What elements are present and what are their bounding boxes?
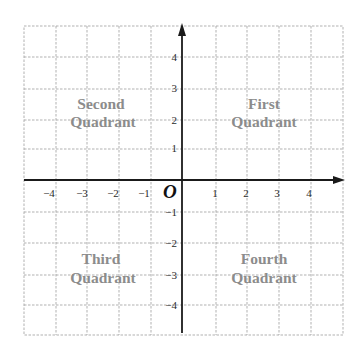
axes (24, 23, 345, 333)
quadrant-label-line2: Quadrant (231, 113, 297, 130)
coordinate-plane-diagram: O −4 −3 −2 −1 1 2 3 4 4 3 2 1 −1 −2 −3 −… (0, 0, 364, 359)
quadrant-label-line2: Quadrant (70, 113, 136, 130)
quadrant-label-line1: Fourth (241, 250, 288, 267)
x-tick-label: −1 (138, 187, 150, 199)
y-axis-arrow-icon (178, 23, 186, 36)
origin-label: O (163, 181, 177, 202)
quadrant-label-line1: Second (77, 95, 125, 112)
quadrant-label-line1: First (248, 95, 281, 112)
y-tick-label: −4 (165, 299, 177, 311)
quadrant-label-line1: Third (82, 250, 121, 267)
quadrant-label-line2: Quadrant (231, 269, 297, 286)
first-quadrant-label: First Quadrant (231, 95, 297, 130)
y-tick-label: −3 (165, 269, 177, 281)
x-tick-label: −2 (107, 187, 119, 199)
x-tick-label: −3 (76, 187, 88, 199)
y-tick-label: −1 (165, 206, 177, 218)
third-quadrant-label: Third Quadrant (70, 250, 136, 286)
x-tick-label: 3 (274, 187, 280, 199)
coordinate-plane-svg: O −4 −3 −2 −1 1 2 3 4 4 3 2 1 −1 −2 −3 −… (0, 0, 364, 359)
y-tick-label: −2 (165, 237, 177, 249)
y-tick-label: 2 (172, 114, 178, 126)
y-tick-label: 3 (172, 82, 178, 94)
quadrant-label-line2: Quadrant (70, 269, 136, 286)
x-tick-label: −4 (43, 187, 55, 199)
x-tick-label: 2 (243, 187, 249, 199)
fourth-quadrant-label: Fourth Quadrant (231, 250, 297, 286)
quadrant-labels: Second Quadrant First Quadrant Third Qua… (70, 95, 297, 286)
y-tick-label: 1 (172, 142, 178, 154)
x-tick-label: 4 (306, 187, 312, 199)
second-quadrant-label: Second Quadrant (70, 95, 136, 130)
x-tick-labels: −4 −3 −2 −1 1 2 3 4 (43, 187, 312, 199)
x-tick-label: 1 (212, 187, 218, 199)
y-tick-label: 4 (172, 51, 178, 63)
